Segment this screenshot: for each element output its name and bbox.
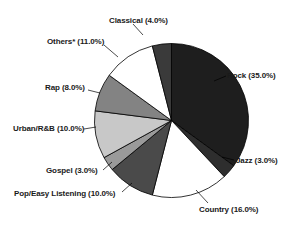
leader-line-country (196, 190, 208, 203)
slice-label-pop-easy-listening: Pop/Easy Listening (10.0%) (14, 189, 115, 199)
leader-line-urban (84, 127, 96, 129)
slice-label-jazz: Jazz (3.0%) (236, 156, 278, 166)
slice-label-country: Country (16.0%) (199, 205, 258, 215)
slice-label-gospel: Gospel (3.0%) (46, 166, 98, 176)
slice-label-urban-rnb: Urban/R&B (10.0%) (13, 124, 84, 134)
leader-line-rap (88, 90, 100, 93)
pie-slices-group (95, 44, 249, 198)
slice-label-others: Others* (11.0%) (47, 37, 104, 47)
slice-label-rock: Rock (35.0%) (227, 71, 276, 81)
pie-chart: Classical (4.0%) Others* (11.0%) Rap (8.… (0, 0, 305, 227)
slice-label-rap: Rap (8.0%) (45, 83, 85, 93)
leader-line-others (104, 45, 118, 57)
leader-line-pop (122, 183, 132, 192)
slice-label-classical: Classical (4.0%) (109, 16, 168, 26)
